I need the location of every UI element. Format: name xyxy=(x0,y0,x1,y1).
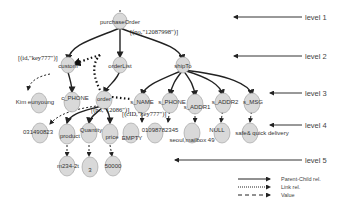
label-order: order xyxy=(97,96,111,102)
legend: Parent-Child rel. Link rel. Value xyxy=(238,176,321,198)
node-010 xyxy=(147,123,163,143)
label-price: price xyxy=(105,134,119,140)
attr-purchaseorder: [(no,"12087998")] xyxy=(130,28,178,36)
label-031: 031490823 xyxy=(23,129,54,135)
label-product: product xyxy=(60,133,80,139)
label-010: 01098782345 xyxy=(142,127,179,133)
label-s-phone: s_PHONE xyxy=(158,99,186,105)
xml-tree-diagram: purchaseOrder custom orderList shipTo Ki… xyxy=(0,0,344,211)
level-5-label: level 5 xyxy=(305,156,327,165)
label-empty: EMPTY xyxy=(122,135,143,141)
level-1-label: level 1 xyxy=(305,13,327,22)
node-quantity xyxy=(81,123,97,143)
label-s-addr2: s_ADDR2 xyxy=(212,99,239,105)
legend-parent-child-label: Parent-Child rel. xyxy=(281,176,321,182)
level-2-label: level 2 xyxy=(305,52,327,61)
label-orderlist: orderList xyxy=(108,63,132,69)
label-m234: m234-2t xyxy=(57,163,79,169)
node-null xyxy=(214,123,230,143)
label-50000: 50000 xyxy=(105,163,122,169)
label-safe: safe& quick delivery xyxy=(235,130,288,136)
label-purchaseorder: purchaseOrder xyxy=(100,19,140,25)
label-c-phone: c_PHONE xyxy=(61,95,89,101)
label-customer: custom xyxy=(58,63,77,69)
label-shipto: shipTo xyxy=(174,63,192,69)
label-s-name: s_NAME xyxy=(130,99,154,105)
level-3-label: level 3 xyxy=(305,89,327,98)
legend-link-label: Link rel. xyxy=(281,184,301,190)
label-s-msg: s_MSG xyxy=(243,99,263,105)
legend-value-label: Value xyxy=(281,192,295,198)
label-kim: Kim eunyoung xyxy=(16,99,54,105)
attr-customer: [(id,"key777")] xyxy=(18,54,58,62)
level-4-label: level 4 xyxy=(305,121,327,130)
label-seoul: seoul,mailbox 49 xyxy=(169,137,215,143)
attr-s-name: [(cID,"key777")] xyxy=(122,110,166,118)
label-s-addr1: s_ADDR1 xyxy=(184,104,211,110)
label-null: NULL xyxy=(209,127,225,133)
label-quantity: Quantity xyxy=(80,127,102,133)
